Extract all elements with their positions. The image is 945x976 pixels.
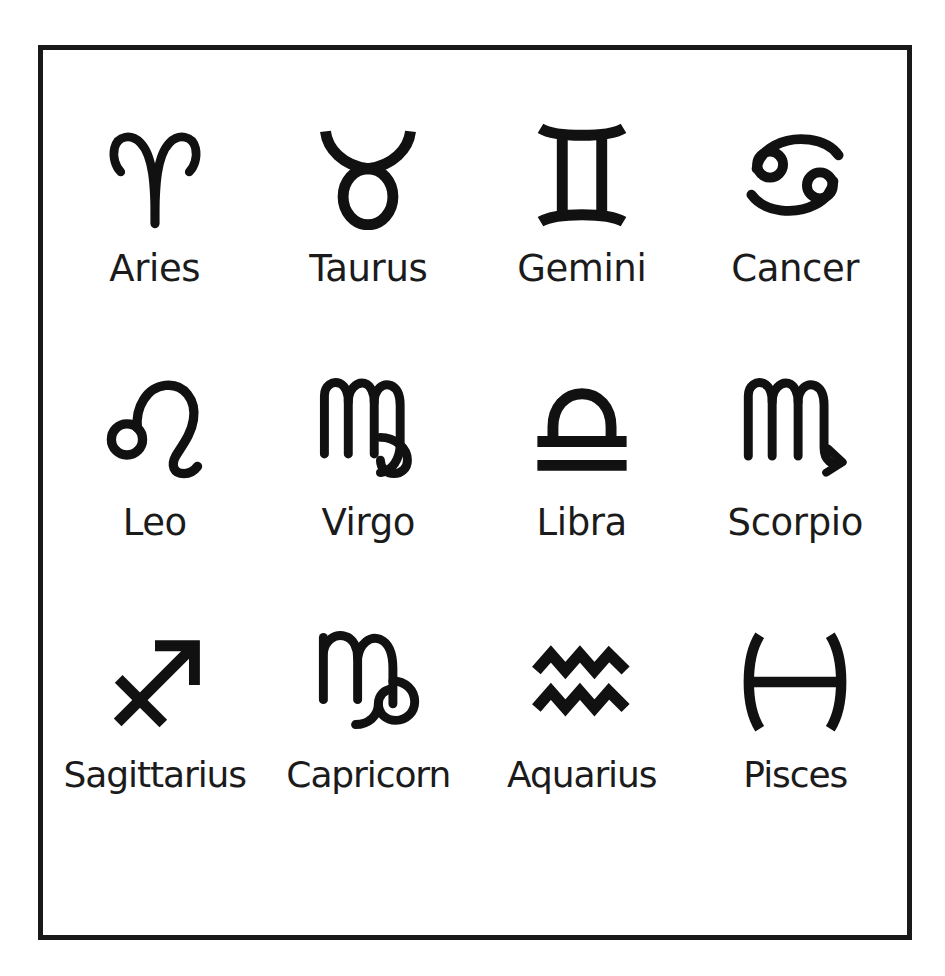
zodiac-sign-grid: Aries Taurus xyxy=(48,55,902,930)
scan-top-sliver xyxy=(0,0,945,9)
zodiac-sign-label: Taurus xyxy=(309,250,427,287)
virgo-symbol-icon xyxy=(316,361,420,496)
zodiac-sign-cell-cancer[interactable]: Cancer xyxy=(689,107,903,361)
cancer-symbol-icon xyxy=(743,107,847,242)
zodiac-sign-cell-capricorn[interactable]: Capricorn xyxy=(262,614,476,868)
zodiac-sign-cell-virgo[interactable]: Virgo xyxy=(262,361,476,615)
sagittarius-symbol-icon xyxy=(103,614,207,749)
zodiac-sign-label: Libra xyxy=(537,504,627,541)
zodiac-sign-cell-libra[interactable]: Libra xyxy=(475,361,689,615)
capricorn-symbol-icon xyxy=(316,614,420,749)
zodiac-sign-cell-sagittarius[interactable]: Sagittarius xyxy=(48,614,262,868)
zodiac-sign-cell-scorpio[interactable]: Scorpio xyxy=(689,361,903,615)
zodiac-sign-cell-aries[interactable]: Aries xyxy=(48,107,262,361)
zodiac-sign-cell-pisces[interactable]: Pisces xyxy=(689,614,903,868)
zodiac-sign-cell-aquarius[interactable]: Aquarius xyxy=(475,614,689,868)
zodiac-sign-label: Pisces xyxy=(743,757,847,793)
zodiac-sign-label: Aquarius xyxy=(507,757,656,793)
pisces-symbol-icon xyxy=(743,614,847,749)
chart-frame-border: Aries Taurus xyxy=(38,45,912,940)
zodiac-sign-label: Leo xyxy=(123,504,187,541)
zodiac-sign-cell-gemini[interactable]: Gemini xyxy=(475,107,689,361)
zodiac-sign-label: Aries xyxy=(109,250,200,287)
zodiac-sign-label: Cancer xyxy=(731,250,859,287)
zodiac-sign-cell-taurus[interactable]: Taurus xyxy=(262,107,476,361)
zodiac-sign-label: Sagittarius xyxy=(64,757,246,793)
zodiac-sign-cell-leo[interactable]: Leo xyxy=(48,361,262,615)
zodiac-chart-page: Aries Taurus xyxy=(0,0,945,976)
zodiac-sign-label: Virgo xyxy=(322,504,415,541)
scorpio-symbol-icon xyxy=(743,361,847,496)
aries-symbol-icon xyxy=(103,107,207,242)
libra-symbol-icon xyxy=(530,361,634,496)
leo-symbol-icon xyxy=(103,361,207,496)
taurus-symbol-icon xyxy=(316,107,420,242)
aquarius-symbol-icon xyxy=(530,614,634,749)
zodiac-sign-label: Capricorn xyxy=(286,757,450,793)
zodiac-sign-label: Scorpio xyxy=(728,504,863,541)
zodiac-sign-label: Gemini xyxy=(517,250,646,287)
gemini-symbol-icon xyxy=(530,107,634,242)
